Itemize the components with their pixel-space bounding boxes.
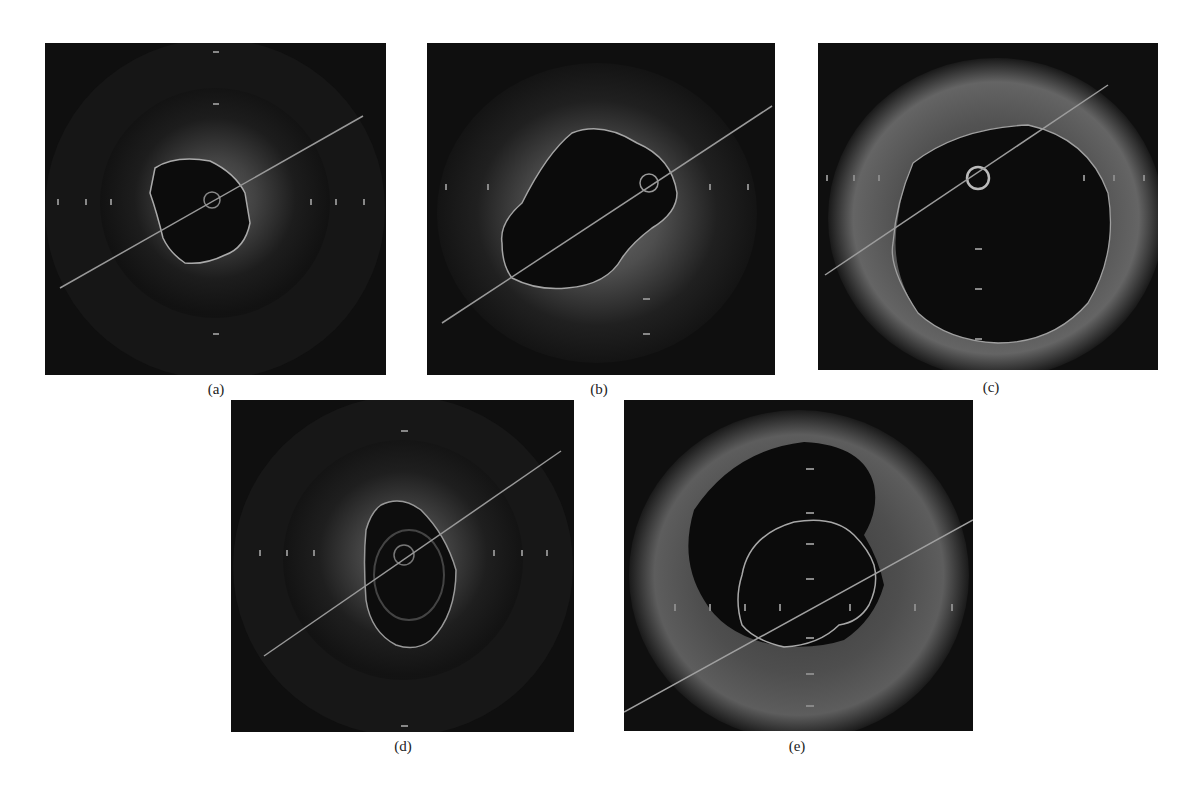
oct-image-a <box>45 43 386 375</box>
oct-scan-a <box>45 43 386 375</box>
oct-image-b <box>427 43 775 375</box>
oct-image-d <box>231 400 574 732</box>
caption-b: (b) <box>579 380 619 398</box>
oct-scan-d <box>231 400 574 732</box>
oct-scan-c <box>818 43 1158 370</box>
caption-a: (a) <box>196 380 236 398</box>
oct-image-c <box>818 43 1158 370</box>
caption-c: (c) <box>971 378 1011 396</box>
caption-e: (e) <box>777 737 817 755</box>
caption-d: (d) <box>383 737 423 755</box>
oct-image-e <box>624 400 973 731</box>
oct-scan-b <box>427 43 775 375</box>
oct-scan-e <box>624 400 973 731</box>
